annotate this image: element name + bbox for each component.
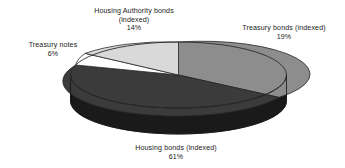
pie-label-value: 14%	[86, 24, 182, 33]
pie-label-value: 6%	[12, 50, 94, 59]
pie-label-value: 19%	[232, 33, 336, 42]
pie-chart: Housing Authority bonds (indexed) 14% Tr…	[0, 0, 345, 168]
pie-label-text-line1: Housing bonds (indexed)	[120, 144, 232, 153]
pie-label-housing-bonds: Housing bonds (indexed) 61%	[120, 144, 232, 161]
pie-label-text-line1: Treasury notes	[12, 41, 94, 50]
pie-label-housing-authority-bonds: Housing Authority bonds (indexed) 14%	[86, 7, 182, 33]
pie-label-text-line1: Treasury bonds (indexed)	[232, 24, 336, 33]
pie-label-value: 61%	[120, 153, 232, 162]
pie-label-treasury-bonds: Treasury bonds (indexed) 19%	[232, 24, 336, 41]
pie-label-text-line1: Housing Authority bonds	[86, 7, 182, 16]
pie-label-treasury-notes: Treasury notes 6%	[12, 41, 94, 58]
pie-label-text-line2: (indexed)	[86, 16, 182, 25]
